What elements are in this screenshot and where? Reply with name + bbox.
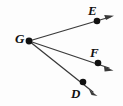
geometry-figure: G E F D xyxy=(0,0,123,106)
label-f: F xyxy=(90,46,99,59)
ray-g-e-arrowhead xyxy=(104,15,114,20)
label-e: E xyxy=(88,4,97,17)
point-e-dot xyxy=(94,18,101,25)
point-f-dot xyxy=(95,60,102,67)
geometry-canvas xyxy=(0,0,123,106)
vertex-g-dot xyxy=(26,38,33,45)
ray-g-f-arrowhead xyxy=(104,66,114,71)
point-d-dot xyxy=(80,79,87,86)
ray-g-f xyxy=(29,41,114,72)
label-d: D xyxy=(71,87,80,100)
ray-g-d xyxy=(29,41,98,96)
ray-g-e xyxy=(29,15,114,41)
label-g: G xyxy=(15,32,24,45)
